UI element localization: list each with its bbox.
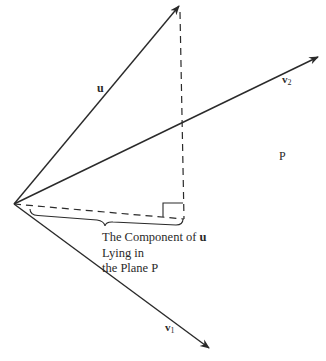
plane-p-label: P — [279, 149, 286, 163]
perpendicular-dashed-line — [180, 12, 184, 219]
caption-line-2: Lying in — [102, 246, 145, 260]
caption-line-3: the Plane P — [102, 261, 158, 275]
vector-projection-diagram: u v2 v1 P The Component of u Lying in th… — [0, 0, 326, 361]
right-angle-marker — [163, 203, 183, 217]
diagram-canvas: u v2 v1 P The Component of u Lying in th… — [0, 0, 326, 361]
caption-line-1: The Component of u — [102, 230, 207, 244]
vector-v2-label: v2 — [282, 73, 292, 87]
vector-v2-arrow — [14, 57, 318, 204]
vector-v1-arrow — [14, 204, 209, 348]
vector-v1-label: v1 — [165, 321, 175, 335]
projection-dashed-line — [14, 204, 184, 219]
vector-u-label: u — [97, 81, 104, 95]
vector-u-arrow — [14, 6, 179, 204]
curly-brace — [30, 209, 183, 226]
